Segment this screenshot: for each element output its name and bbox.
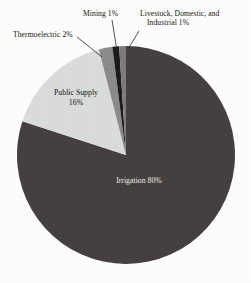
pie-chart-svg <box>0 0 251 283</box>
slice-label-thermoelectric: Thermoelectric 2% <box>13 30 73 39</box>
slice-label-public-supply-name: Public Supply <box>54 88 98 97</box>
slice-label-public-supply: Public Supply 16% <box>39 88 113 107</box>
slice-label-irrigation: Irrigation 80% <box>103 176 175 186</box>
slice-label-public-supply-value: 16% <box>39 98 113 108</box>
pie-chart: Thermoelectric 2% Mining 1% Livestock, D… <box>0 0 251 283</box>
slice-label-livestock-line1: Livestock, Domestic, and <box>140 9 219 18</box>
leader-line-mining <box>112 20 117 51</box>
slice-label-livestock-line2: Industrial 1% <box>140 18 236 27</box>
slice-label-mining: Mining 1% <box>83 9 118 18</box>
slice-label-livestock: Livestock, Domestic, and Industrial 1% <box>140 9 236 28</box>
